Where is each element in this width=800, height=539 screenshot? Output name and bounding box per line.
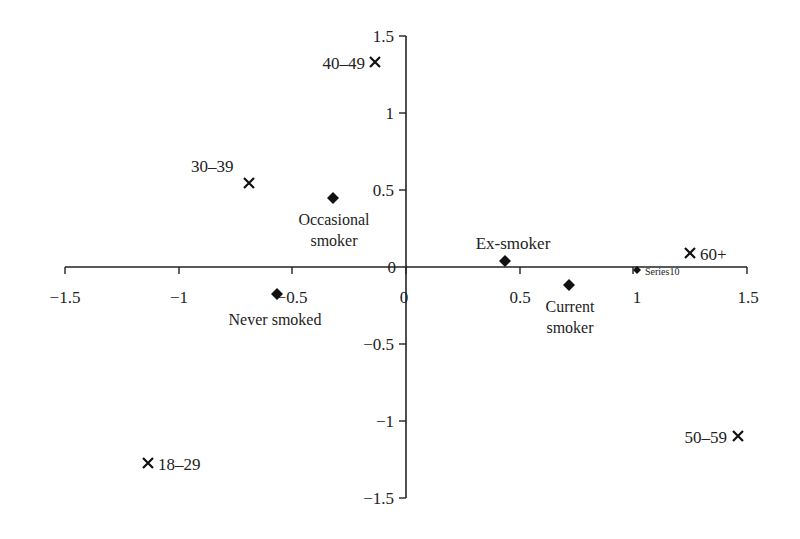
point-current-smoker: Current smoker [546,279,595,336]
point-label: Ex-smoker [476,234,551,253]
point-occasional-smoker: Occasional smoker [298,192,370,249]
x-tick-label: −1.5 [50,288,81,307]
x-tick-label: 0.5 [509,288,530,307]
y-tick-label: −0.5 [363,335,394,354]
x-tick-label: −1 [170,288,188,307]
diamond-marker-icon [563,279,575,291]
x-tick-label: 1 [633,288,642,307]
x-marker-icon [143,458,153,468]
point-label: Occasional [298,211,370,228]
point-50-59: 50–59 [685,428,744,447]
diamond-marker-icon [327,192,339,204]
point-label: smoker [310,232,358,249]
correspondence-scatter-chart: −1.5 −1 −0.5 0 0.5 1 1.5 1.5 1 0.5 0 −0.… [0,0,800,539]
point-60-plus: 60+ [685,245,727,264]
point-label: smoker [546,319,594,336]
x-tick-label: 0 [400,288,409,307]
point-18-29: 18–29 [143,455,201,474]
y-tick-label: −1 [376,412,394,431]
point-label: 50–59 [685,428,728,447]
x-marker-icon [370,57,380,67]
x-marker-icon [244,178,254,188]
series-age-group: 40–49 30–39 18–29 50–59 60+ [143,54,743,474]
x-tick-label: −0.5 [277,288,308,307]
point-ex-smoker: Ex-smoker [476,234,551,267]
y-tick-label: 0 [388,258,397,277]
y-tick-label: 1.5 [373,27,394,46]
x-tick-label: 1.5 [737,288,758,307]
point-never-smoked: Never smoked [229,288,322,328]
point-label: 18–29 [158,455,201,474]
point-label: Never smoked [229,311,322,328]
y-tick-label: 0.5 [373,181,394,200]
point-label: Series10 [645,266,679,277]
point-30-39: 30–39 [191,157,254,188]
point-label: 40–49 [323,54,366,73]
point-40-49: 40–49 [323,54,381,73]
point-label: 30–39 [191,157,234,176]
x-marker-icon [685,248,695,258]
point-label: Current [546,298,595,315]
point-label: 60+ [700,245,727,264]
y-tick-label: −1.5 [363,489,394,508]
y-tick-label: 1 [386,104,395,123]
x-marker-icon [733,431,743,441]
series-smoking-status: Occasional smoker Never smoked Ex-smoker… [229,192,680,336]
diamond-marker-icon [499,255,511,267]
